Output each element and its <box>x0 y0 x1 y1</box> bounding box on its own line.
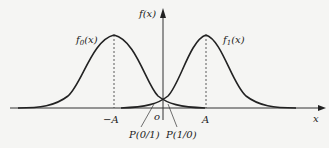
annotation-p10: P(1/0) <box>165 129 197 140</box>
x-axis-arrow-icon <box>318 105 326 111</box>
annotation-p01: P(0/1) <box>128 129 160 140</box>
tick-neg-a: −A <box>103 114 119 125</box>
y-axis-arrow-icon <box>160 8 166 18</box>
tick-pos-a: A <box>201 114 209 125</box>
leader-p10 <box>168 104 177 127</box>
origin-label: o <box>154 111 160 122</box>
gaussian-decision-diagram: f(x) x o f0(x) f1(x) −A A P(0/1) P(1/0) <box>0 0 329 148</box>
diagram-canvas: f(x) x o f0(x) f1(x) −A A P(0/1) P(1/0) <box>0 0 329 148</box>
f1-label: f1(x) <box>222 34 245 47</box>
f0-label: f0(x) <box>75 34 98 47</box>
curve-f1 <box>121 35 296 108</box>
x-axis-label: x <box>313 113 319 124</box>
curve-f0 <box>18 35 205 108</box>
y-axis-label: f(x) <box>138 8 156 19</box>
leader-p01 <box>141 104 154 127</box>
